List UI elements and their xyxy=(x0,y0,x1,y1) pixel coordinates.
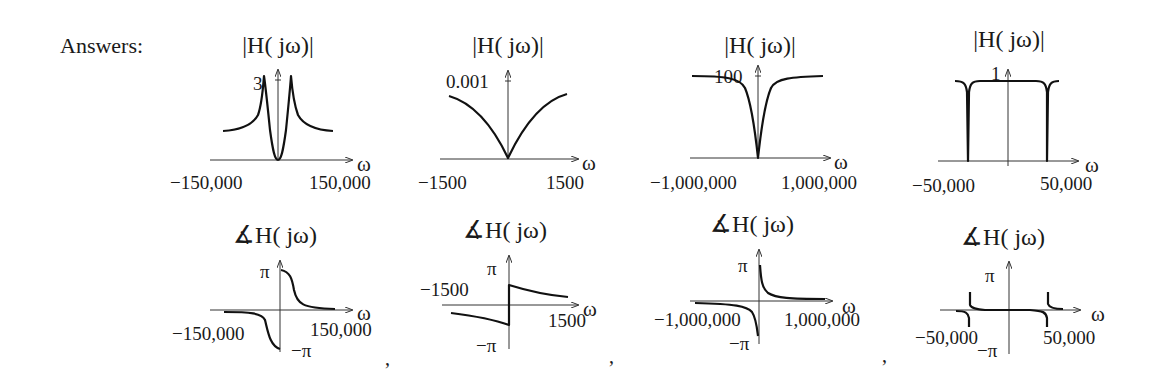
phase-title: ∡H( jω) xyxy=(233,222,317,248)
omega-label: ω xyxy=(1091,302,1105,326)
magnitude-curve xyxy=(955,81,1059,161)
answers-figure: Answers: |H( jω)| 3 ω −150,000 150,000 |… xyxy=(0,0,1169,385)
phase-curve xyxy=(281,270,335,309)
phase-curve xyxy=(760,265,825,299)
x-tick-label-max: 1,000,000 xyxy=(781,172,857,193)
pi-label: π xyxy=(260,261,270,282)
x-tick-label-max: 1500 xyxy=(546,172,584,193)
x-tick-label-max: 50,000 xyxy=(1040,173,1092,194)
magnitude-plot-2: |H( jω)| 0.001 ω −1500 1500 xyxy=(418,32,596,193)
magnitude-title: |H( jω)| xyxy=(472,32,543,58)
phase-title: ∡H( jω) xyxy=(710,211,794,237)
x-tick-label-min: −1,000,000 xyxy=(650,172,737,193)
magnitude-plot-3: |H( jω)| 100 ω −1,000,000 1,000,000 xyxy=(650,32,857,193)
x-tick-label-min: −150,000 xyxy=(170,172,242,193)
answers-label: Answers: xyxy=(60,33,143,58)
x-tick-label-min: −150,000 xyxy=(172,323,244,344)
phase-title: ∡H( jω) xyxy=(961,224,1045,250)
separator-comma: , xyxy=(882,344,887,366)
x-tick-label-max: 50,000 xyxy=(1043,327,1095,348)
y-tick-label: 0.001 xyxy=(446,71,489,92)
phase-plot-3: ∡H( jω) π −π ω −1,000,000 1,000,000 , xyxy=(654,211,887,366)
pi-label: π xyxy=(738,255,748,276)
neg-pi-label: −π xyxy=(291,340,312,361)
magnitude-plot-4: |H( jω)| 1 ω −50,000 50,000 xyxy=(912,26,1099,196)
neg-pi-label: −π xyxy=(977,340,998,361)
x-tick-label-min: −1,000,000 xyxy=(654,309,741,330)
magnitude-plot-1: |H( jω)| 3 ω −150,000 150,000 xyxy=(170,32,371,193)
phase-plot-4: ∡H( jω) π −π ω −50,000 50,000 xyxy=(915,224,1105,361)
separator-comma: , xyxy=(609,345,614,367)
phase-plot-1: ∡H( jω) π −π ω −150,000 150,000 , xyxy=(172,222,390,369)
x-tick-label-max: 1500 xyxy=(548,310,586,331)
omega-label: ω xyxy=(582,151,596,175)
y-tick-label: 3 xyxy=(253,73,263,94)
pi-label: π xyxy=(487,258,497,279)
x-tick-label-max: 150,000 xyxy=(309,172,371,193)
omega-label: ω xyxy=(834,150,848,174)
phase-plot-2: ∡H( jω) π −1500 −π ω 1500 , xyxy=(420,217,614,367)
y-tick-label-left: −1500 xyxy=(420,279,469,300)
x-tick-label-min: −50,000 xyxy=(912,175,975,196)
separator-comma: , xyxy=(385,347,390,369)
phase-title: ∡H( jω) xyxy=(463,217,547,243)
neg-pi-label: −π xyxy=(476,335,497,356)
pi-label: π xyxy=(985,265,995,286)
x-tick-label-max: 150,000 xyxy=(310,319,372,340)
magnitude-title: |H( jω)| xyxy=(242,32,313,58)
x-tick-label-max: 1,000,000 xyxy=(784,309,860,330)
x-tick-label-min: −50,000 xyxy=(915,327,978,348)
x-tick-label-min: −1500 xyxy=(418,172,467,193)
magnitude-title: |H( jω)| xyxy=(724,32,795,58)
neg-pi-label: −π xyxy=(729,333,750,354)
magnitude-title: |H( jω)| xyxy=(973,26,1044,52)
